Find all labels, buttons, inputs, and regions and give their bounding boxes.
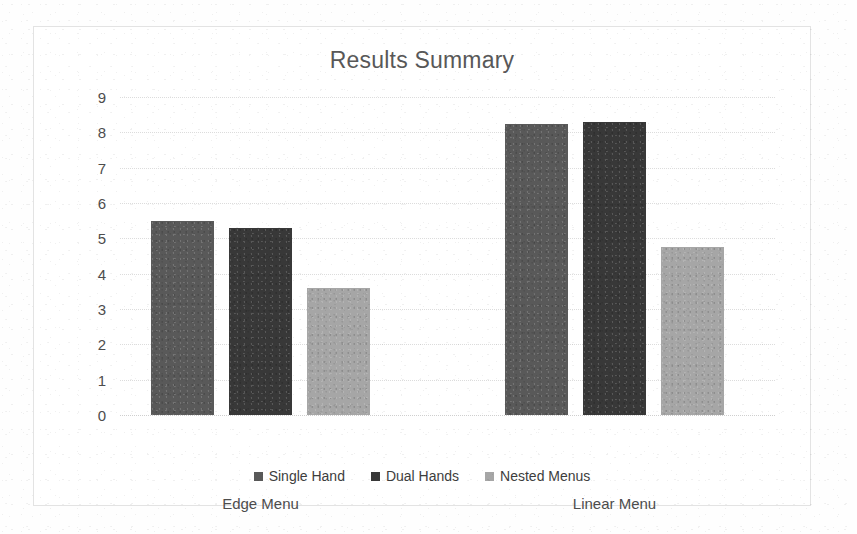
bar-linear-menu-dual-hands: [583, 122, 646, 415]
bar-fill: [661, 247, 724, 415]
bar-linear-menu-nested-menus: [661, 247, 724, 415]
legend-swatch-icon: [485, 472, 494, 481]
bar-fill: [583, 122, 646, 415]
y-tick-label-1: 1: [98, 371, 106, 388]
legend-swatch-icon: [254, 472, 263, 481]
gridline-7: [120, 168, 775, 169]
legend-swatch-icon: [371, 472, 380, 481]
bar-fill: [505, 124, 568, 416]
y-tick-label-3: 3: [98, 301, 106, 318]
x-label-edge-menu: Edge Menu: [222, 495, 299, 512]
gridline-8: [120, 132, 775, 133]
gridline-6: [120, 203, 775, 204]
bar-edge-menu-single-hand: [151, 221, 214, 415]
legend-label: Single Hand: [269, 468, 345, 484]
gridline-0: [120, 415, 775, 416]
bar-edge-menu-nested-menus: [307, 288, 370, 415]
chart-frame: Results Summary 9876543210 Edge MenuLine…: [33, 26, 811, 506]
legend-item-nested-menus: Nested Menus: [485, 468, 590, 484]
bar-fill: [151, 221, 214, 415]
legend-label: Nested Menus: [500, 468, 590, 484]
plot-area: 9876543210 Edge MenuLinear Menu: [120, 97, 775, 415]
y-tick-label-4: 4: [98, 265, 106, 282]
bar-edge-menu-dual-hands: [229, 228, 292, 415]
legend-item-single-hand: Single Hand: [254, 468, 345, 484]
y-tick-label-2: 2: [98, 336, 106, 353]
chart-legend: Single HandDual HandsNested Menus: [34, 468, 810, 484]
chart-title: Results Summary: [34, 47, 810, 74]
legend-label: Dual Hands: [386, 468, 459, 484]
y-tick-label-0: 0: [98, 407, 106, 424]
x-label-linear-menu: Linear Menu: [573, 495, 656, 512]
y-tick-label-6: 6: [98, 195, 106, 212]
y-tick-label-7: 7: [98, 159, 106, 176]
y-tick-label-8: 8: [98, 124, 106, 141]
gridline-5: [120, 238, 775, 239]
bar-fill: [307, 288, 370, 415]
gridline-9: [120, 97, 775, 98]
y-tick-label-9: 9: [98, 89, 106, 106]
legend-item-dual-hands: Dual Hands: [371, 468, 459, 484]
y-tick-label-5: 5: [98, 230, 106, 247]
bar-linear-menu-single-hand: [505, 124, 568, 416]
scanned-page: Results Summary 9876543210 Edge MenuLine…: [0, 0, 857, 534]
bar-fill: [229, 228, 292, 415]
